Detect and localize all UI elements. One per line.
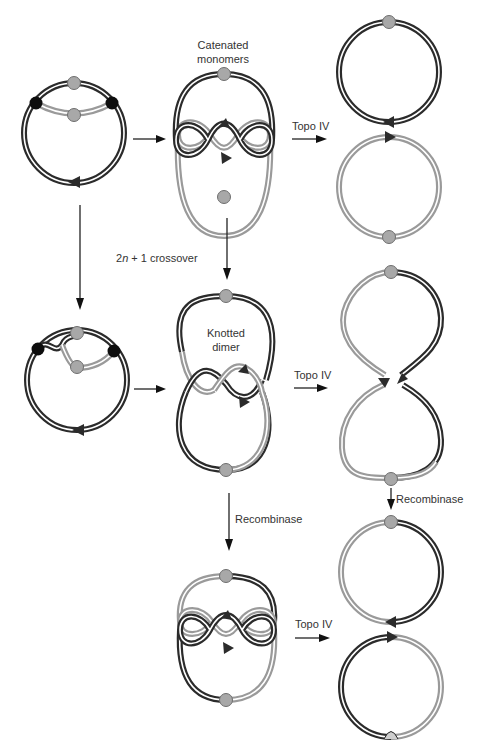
stage-unknotted-dimer <box>342 266 441 486</box>
gray-site-icon <box>68 109 81 122</box>
gray-site-icon <box>220 464 233 477</box>
arrow-right <box>133 135 166 143</box>
recombinase-label: Recombinase <box>396 493 463 505</box>
knotted-dimer-label-1: Knotted <box>207 327 245 339</box>
stage-replicating-circle-crossover <box>27 327 127 437</box>
gray-site-icon <box>220 694 233 707</box>
topo-iv-arrow-row1: Topo IV <box>292 120 330 143</box>
topo-iv-label: Topo IV <box>294 369 332 381</box>
catenated-monomers-label-1: Catenated <box>198 39 249 51</box>
stage-catenated-monomers: Catenated monomers <box>176 39 273 236</box>
stage-knotted-dimer: Knotted dimer <box>179 290 273 477</box>
crossover-label: 2n + 1 crossover <box>116 252 198 264</box>
direction-arrowhead-icon <box>385 131 396 143</box>
arrow-right <box>134 385 166 393</box>
gray-site-icon <box>218 191 231 204</box>
topo-iv-label: Topo IV <box>295 618 333 630</box>
black-site-icon <box>108 345 121 358</box>
stage-catenated-after-recombinase <box>180 570 275 707</box>
gray-site-icon <box>383 16 396 29</box>
direction-arrowhead-icon <box>397 373 408 384</box>
gray-site-icon <box>385 266 398 279</box>
direction-arrowhead-icon <box>68 176 80 188</box>
direction-arrowhead-icon <box>383 116 394 128</box>
topo-iv-arrow-row3: Topo IV <box>295 618 333 642</box>
topo-iv-label: Topo IV <box>292 120 330 132</box>
direction-arrowhead-icon <box>221 152 232 164</box>
gray-site-icon <box>68 77 81 90</box>
gray-site-icon <box>220 290 233 303</box>
black-site-icon <box>106 97 119 110</box>
diagram-canvas: Catenated monomers Topo IV <box>0 0 477 752</box>
gray-site-icon <box>218 68 231 81</box>
gray-site-icon <box>385 516 398 529</box>
stage-decatenated-monomers <box>339 16 439 244</box>
arrow-down <box>76 205 84 310</box>
black-site-icon <box>30 97 43 110</box>
catenated-monomers-label-2: monomers <box>197 53 249 65</box>
direction-arrowhead-icon <box>387 631 398 643</box>
gray-site-icon <box>71 361 84 374</box>
direction-arrowhead-icon <box>72 424 84 436</box>
gray-site-icon <box>71 327 84 340</box>
knotted-dimer-label-2: dimer <box>212 341 240 353</box>
recombinase-arrow-middle: Recombinase <box>225 493 302 551</box>
site-half-icon <box>384 732 398 740</box>
stage-resolved-monomers <box>341 516 441 740</box>
recombinase-label: Recombinase <box>235 513 302 525</box>
recombinase-arrow-right: Recombinase <box>387 488 463 510</box>
arrow-down <box>223 218 231 280</box>
direction-arrowhead-icon <box>385 616 396 628</box>
gray-site-icon <box>383 231 396 244</box>
stage-replicating-circle <box>24 77 124 189</box>
direction-arrowhead-icon <box>223 642 234 654</box>
gray-site-icon <box>220 570 233 583</box>
gray-site-icon <box>385 473 398 486</box>
black-site-icon <box>32 343 45 356</box>
topo-iv-arrow-row2: Topo IV <box>294 369 332 392</box>
